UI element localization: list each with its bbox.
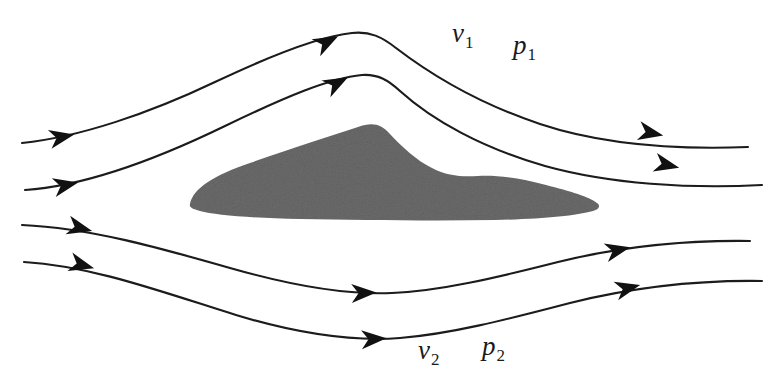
label-v2-symbol: v xyxy=(418,335,430,365)
label-v1-symbol: v xyxy=(452,18,464,48)
flow-arrowhead xyxy=(52,173,80,197)
label-v2-subscript: 2 xyxy=(431,350,440,369)
label-pressure-bottom: p2 xyxy=(482,333,504,360)
flow-arrowhead xyxy=(614,276,643,300)
flow-arrowhead xyxy=(67,253,96,278)
label-velocity-top: v1 xyxy=(452,20,472,47)
flow-arrowhead xyxy=(48,125,76,148)
flow-diagram-canvas xyxy=(0,0,784,383)
fluid-flow-diagram: v1 p1 v2 p2 xyxy=(0,0,784,383)
label-pressure-top: p1 xyxy=(513,32,535,59)
flow-arrowhead xyxy=(312,28,343,56)
flow-arrowhead xyxy=(604,238,633,262)
airfoil-shape xyxy=(190,124,599,220)
label-p1-subscript: 1 xyxy=(528,45,537,64)
streamline-bottom-outer xyxy=(24,262,762,339)
airfoil-body-group xyxy=(190,124,599,220)
flow-arrowhead xyxy=(637,121,665,144)
label-p2-symbol: p xyxy=(482,331,496,361)
label-p2-subscript: 2 xyxy=(497,346,506,365)
label-v1-subscript: 1 xyxy=(465,33,474,52)
label-velocity-bottom: v2 xyxy=(418,337,438,364)
flow-arrowhead xyxy=(66,216,95,240)
label-p1-symbol: p xyxy=(513,30,527,60)
flow-arrowhead xyxy=(653,153,682,177)
